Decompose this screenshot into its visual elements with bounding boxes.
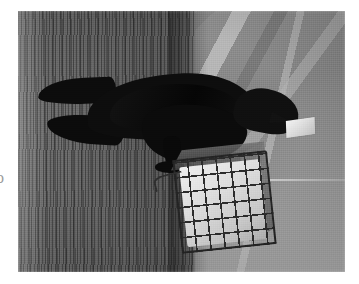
feeder-frame (172, 150, 276, 253)
suet-cage-feeder (172, 150, 276, 253)
suet-chunk-in-beak (286, 117, 316, 138)
page-canvas: o (0, 0, 359, 284)
photograph (18, 11, 345, 272)
photo-caption (0, 0, 1, 1)
margin-glyph: o (0, 168, 12, 188)
